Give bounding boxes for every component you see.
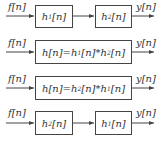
block-h-combined-h2-h1: h[n]=h2[n]*h1[n] — [35, 76, 132, 100]
output-label: y[n] — [136, 74, 156, 84]
block-arg: [n] — [52, 118, 66, 129]
block-text: h[n]=h — [42, 47, 78, 58]
output-label: y[n] — [136, 2, 156, 12]
input-label: f[n] — [8, 108, 26, 118]
block-h-combined-h1-h2: h[n]=h1[n]*h2[n] — [35, 40, 132, 64]
block-h2: h2[n] — [35, 111, 73, 135]
block-text: [n] — [111, 83, 125, 94]
block-text: h[n]=h — [42, 83, 78, 94]
block-h2: h2[n] — [95, 5, 132, 28]
input-label: f[n] — [8, 74, 26, 84]
connection-lines — [0, 0, 157, 142]
output-label: y[n] — [136, 38, 156, 48]
input-label: f[n] — [8, 2, 26, 12]
output-label: y[n] — [136, 108, 156, 118]
block-text: [n]*h — [81, 83, 107, 94]
block-text: [n] — [111, 47, 125, 58]
block-text: [n]*h — [81, 47, 107, 58]
input-label: f[n] — [8, 38, 26, 48]
block-h1: h1[n] — [95, 111, 132, 135]
block-arg: [n] — [52, 11, 66, 22]
block-arg: [n] — [112, 11, 126, 22]
block-arg: [n] — [112, 118, 126, 129]
block-h1: h1[n] — [35, 5, 73, 28]
